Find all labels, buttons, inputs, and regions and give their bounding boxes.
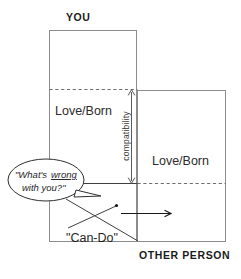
speech-bubble-ellipse (8, 159, 84, 201)
speech-bubble-line-2: with you?" (22, 182, 66, 193)
compatibility-measure: compatibility (121, 90, 135, 184)
can-do-leader-line-2 (68, 206, 116, 228)
you-heading: YOU (66, 11, 91, 23)
compatibility-label: compatibility (121, 111, 131, 161)
direction-arrow (121, 210, 171, 217)
relationship-compatibility-diagram: YOU OTHER PERSON Love/Born Love/Born com… (0, 0, 241, 279)
speech-bubble-line-1-prefix: "What's (15, 169, 47, 180)
can-do-annotation: "Can-Do" (66, 199, 138, 245)
can-do-label: "Can-Do" (66, 231, 118, 245)
speech-bubble-tail (74, 190, 101, 197)
other-person-heading: OTHER PERSON (139, 249, 230, 261)
other-person-love-born-label: Love/Born (152, 154, 209, 168)
diagram-canvas: YOU OTHER PERSON Love/Born Love/Born com… (0, 0, 241, 279)
speech-bubble: "What's wrong with you?" (8, 159, 101, 201)
you-love-born-label: Love/Born (55, 104, 112, 118)
can-do-leader-dot (115, 204, 118, 207)
speech-bubble-line-1-emphasis: wrong (51, 169, 78, 180)
